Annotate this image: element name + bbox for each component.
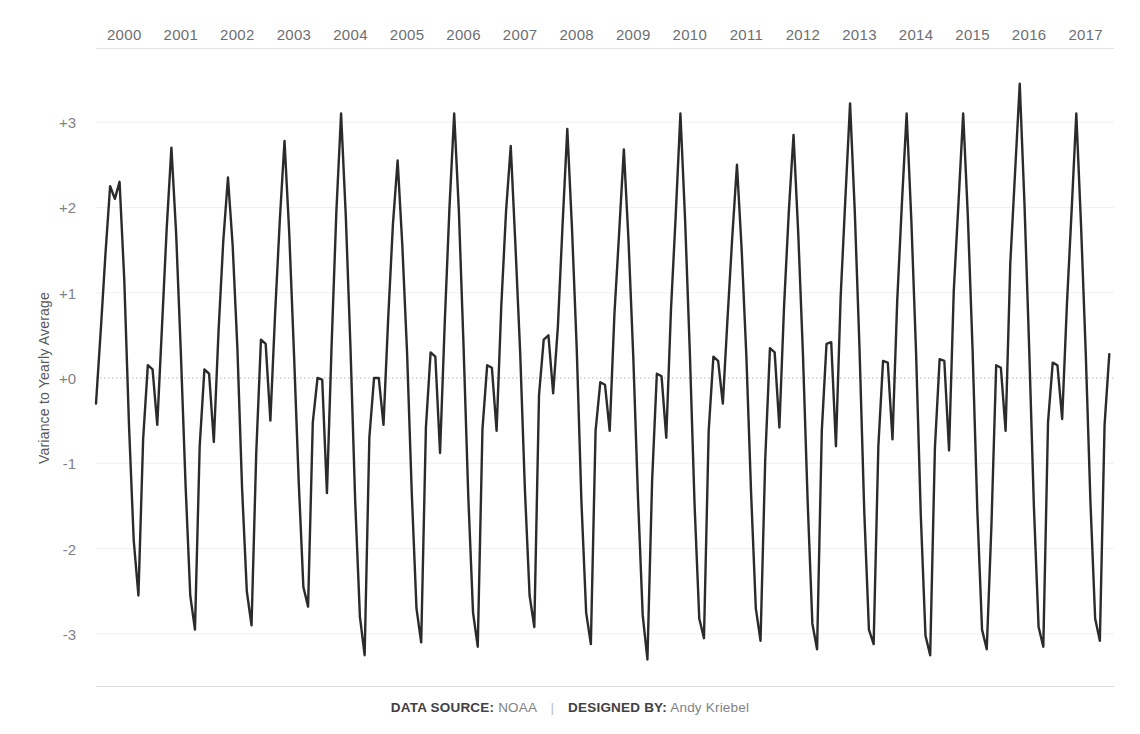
line-plot: [0, 0, 1140, 734]
y-axis-tick--1: -1: [36, 455, 76, 472]
x-axis-tick-2000: 2000: [107, 26, 142, 43]
x-axis-tick-2014: 2014: [899, 26, 934, 43]
y-axis-tick-+1: +1: [36, 284, 76, 301]
bottom-axis-rule: [96, 686, 1114, 687]
y-axis-tick--3: -3: [36, 625, 76, 642]
x-axis-tick-2017: 2017: [1068, 26, 1103, 43]
x-axis-tick-2010: 2010: [673, 26, 708, 43]
footer-credits: DATA SOURCE: NOAA | DESIGNED BY: Andy Kr…: [0, 700, 1140, 715]
x-axis-tick-2005: 2005: [390, 26, 425, 43]
x-axis-tick-2011: 2011: [730, 26, 763, 43]
top-axis-rule: [96, 48, 1114, 49]
x-axis-tick-2003: 2003: [277, 26, 312, 43]
y-axis-tick-+2: +2: [36, 199, 76, 216]
chart-canvas: Variance to Yearly Average 2000200120022…: [0, 0, 1140, 734]
x-axis-tick-2007: 2007: [503, 26, 538, 43]
gridlines: [96, 122, 1114, 634]
y-axis-tick-+0: +0: [36, 370, 76, 387]
x-axis-tick-2001: 2001: [164, 26, 199, 43]
footer-separator: |: [540, 700, 564, 715]
data-source-value: NOAA: [498, 700, 536, 715]
y-axis-tick-+3: +3: [36, 114, 76, 131]
x-axis-tick-2006: 2006: [446, 26, 481, 43]
x-axis-tick-2002: 2002: [220, 26, 255, 43]
y-axis-tick--2: -2: [36, 540, 76, 557]
designer-value: Andy Kriebel: [670, 700, 749, 715]
x-axis-tick-2016: 2016: [1012, 26, 1047, 43]
x-axis-tick-2004: 2004: [333, 26, 368, 43]
x-axis-tick-2008: 2008: [559, 26, 594, 43]
x-axis-tick-2012: 2012: [786, 26, 821, 43]
series-line-variance: [96, 84, 1109, 660]
data-source-label: DATA SOURCE:: [391, 700, 494, 715]
designer-label: DESIGNED BY:: [568, 700, 667, 715]
x-axis-tick-2013: 2013: [842, 26, 877, 43]
x-axis-tick-2009: 2009: [616, 26, 651, 43]
x-axis-tick-2015: 2015: [955, 26, 990, 43]
